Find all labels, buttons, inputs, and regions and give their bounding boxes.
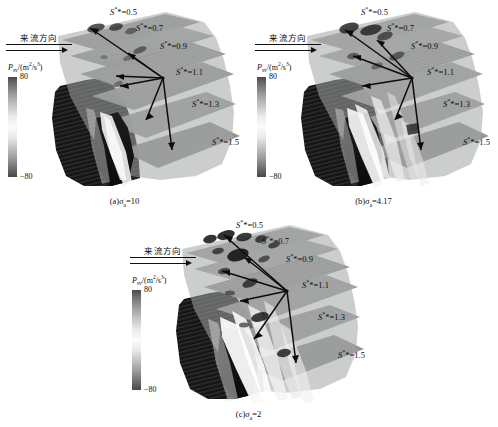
colorbar-tick-max: 80 (20, 73, 28, 81)
span-label-1.5: S**=1.5 (463, 136, 490, 146)
colorbar-a: Psv/(m2/s3) 80 −80 (8, 62, 42, 177)
colorbar-tick-max: 80 (144, 286, 152, 294)
span-label-1.3: S**=1.3 (192, 98, 219, 108)
span-label-0.9: S**=0.9 (286, 253, 313, 263)
flow-direction-annotation-a: 来流方向 (6, 34, 72, 53)
colorbar-b: Psv/(m2/s3) 80 −80 (257, 62, 291, 177)
flow-arrow-icon (6, 47, 72, 53)
flow-direction-annotation-b: 来流方向 (255, 34, 321, 53)
colorbar-variable-subscript: sv (262, 67, 267, 73)
span-label-1.5: S**=1.5 (212, 136, 239, 146)
span-label-0.7: S**=0.7 (262, 235, 289, 245)
span-label-0.7: S**=0.7 (387, 22, 414, 32)
flow-underline (130, 257, 196, 258)
colorbar-gradient-strip (8, 77, 17, 177)
colorbar-body: 80 −80 (132, 290, 166, 390)
panel-c-caption: (c)σa=2 (124, 410, 373, 421)
colorbar-variable-subscript: sv (137, 280, 142, 286)
colorbar-tick-max: 80 (269, 73, 277, 81)
colorbar-body: 80 −80 (8, 77, 42, 177)
span-label-1.3: S**=1.3 (443, 98, 470, 108)
colorbar-variable-subscript: sv (13, 67, 18, 73)
span-label-1.1: S**=1.1 (302, 279, 329, 289)
panel-a-caption: (a)σa=10 (0, 197, 249, 208)
colorbar-gradient-strip (257, 77, 266, 177)
flow-arrow-icon (255, 47, 321, 53)
panel-c: 来流方向 Psv/(m2/s3) 80 −80 S**=0.5 S**=0.7 … (124, 213, 373, 427)
flow-arrow-icon (130, 260, 196, 266)
colorbar-gradient-strip (132, 290, 141, 390)
span-label-0.5: S**=0.5 (236, 219, 263, 229)
span-label-0.5: S**=0.5 (361, 6, 388, 16)
span-label-0.7: S**=0.7 (136, 22, 163, 32)
flow-direction-label: 来流方向 (130, 247, 196, 256)
span-label-1.5: S**=1.5 (338, 349, 365, 359)
flow-direction-annotation-c: 来流方向 (130, 247, 196, 266)
panel-a: 来流方向 Psv/(m2/s3) 80 −80 S**=0.5 S**=0.7 (0, 0, 249, 214)
span-label-0.9: S**=0.9 (411, 40, 438, 50)
flow-direction-label: 来流方向 (6, 34, 72, 43)
flow-direction-label: 来流方向 (255, 34, 321, 43)
colorbar-c: Psv/(m2/s3) 80 −80 (132, 275, 166, 390)
panel-b-caption: (b)σa=4.17 (249, 197, 498, 208)
panel-b: 来流方向 Psv/(m2/s3) 80 −80 S**=0.5 S**=0.7 … (249, 0, 498, 214)
span-label-1.3: S**=1.3 (318, 311, 345, 321)
colorbar-tick-min: −80 (144, 386, 157, 394)
span-label-0.5: S**=0.5 (110, 6, 137, 16)
span-label-1.1: S**=1.1 (176, 66, 203, 76)
colorbar-tick-min: −80 (269, 173, 282, 181)
flow-underline (6, 44, 72, 45)
colorbar-body: 80 −80 (257, 77, 291, 177)
figure-root: 来流方向 Psv/(m2/s3) 80 −80 S**=0.5 S**=0.7 (0, 0, 498, 427)
flow-underline (255, 44, 321, 45)
span-label-1.1: S**=1.1 (427, 66, 454, 76)
colorbar-tick-min: −80 (20, 173, 33, 181)
span-label-0.9: S**=0.9 (160, 40, 187, 50)
